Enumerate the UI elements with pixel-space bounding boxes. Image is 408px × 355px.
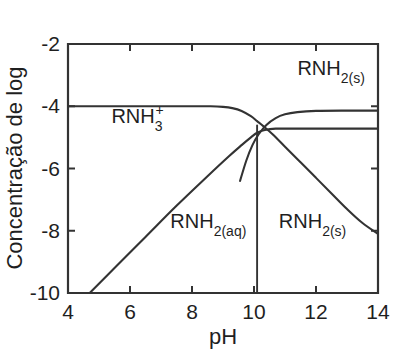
x-tick-label-4: 4 [62, 300, 74, 323]
y-tick-label--6: -6 [41, 157, 60, 180]
x-tick-label-8: 8 [186, 300, 198, 323]
x-tick-label-14: 14 [366, 300, 390, 323]
y-tick-label--8: -8 [41, 219, 60, 242]
concentration-vs-ph-chart: 468101214 -2-4-6-8-10 pH Concentração de… [0, 0, 408, 355]
x-tick-label-10: 10 [242, 300, 265, 323]
x-axis-title: pH [209, 324, 237, 349]
x-tick-label-6: 6 [124, 300, 136, 323]
chart-figure: 468101214 -2-4-6-8-10 pH Concentração de… [0, 0, 408, 355]
y-axis-title: Concentração de log [2, 66, 27, 269]
x-tick-label-12: 12 [304, 300, 327, 323]
y-tick-label--4: -4 [41, 94, 60, 117]
y-tick-label--10: -10 [30, 281, 60, 304]
y-tick-label--2: -2 [41, 32, 60, 55]
